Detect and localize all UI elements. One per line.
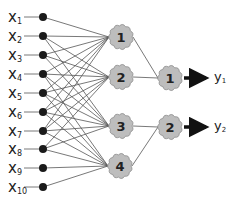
input-label: x6 <box>8 103 22 121</box>
node-number: 2 <box>116 70 125 85</box>
input-dot <box>39 51 47 59</box>
input-label: x3 <box>8 46 22 64</box>
input-node-x10: x10 <box>8 178 47 196</box>
input-layer: x1x2x3x4x5x6x7x8x9x10 <box>8 8 47 196</box>
edge <box>43 126 109 149</box>
input-dot <box>39 89 47 97</box>
node-number: 1 <box>116 30 125 45</box>
output-node-1: 1y1 <box>158 65 227 90</box>
hidden-node-4: 4 <box>108 153 132 178</box>
input-dot <box>39 32 47 40</box>
input-label: x5 <box>8 84 22 102</box>
input-label: x8 <box>8 140 22 158</box>
hidden-node-3: 3 <box>109 113 133 138</box>
input-label: x4 <box>8 65 22 83</box>
input-node-x8: x8 <box>8 140 47 158</box>
edge <box>43 166 108 168</box>
input-hidden-edges <box>43 17 109 187</box>
edge <box>132 127 158 166</box>
input-node-x6: x6 <box>8 103 47 121</box>
node-number: 4 <box>115 159 124 174</box>
input-label: x7 <box>8 122 22 140</box>
input-label: x1 <box>8 8 22 26</box>
input-dot <box>39 127 47 135</box>
input-dot <box>39 145 47 153</box>
output-layer: 1y12y2 <box>158 65 227 139</box>
node-number: 3 <box>116 119 125 134</box>
hidden-output-edges <box>132 37 158 166</box>
edge <box>43 166 108 187</box>
input-label: x9 <box>8 159 22 177</box>
input-dot <box>39 13 47 21</box>
input-node-x9: x9 <box>8 159 47 177</box>
input-dot <box>39 164 47 172</box>
input-dot <box>39 183 47 191</box>
output-node-2: 2y2 <box>158 114 227 139</box>
hidden-layer: 1234 <box>108 24 133 178</box>
edge <box>43 131 108 166</box>
input-dot <box>39 70 47 78</box>
neural-network-diagram: x1x2x3x4x5x6x7x8x9x10 1234 1y12y2 <box>0 0 231 202</box>
edge <box>133 77 158 78</box>
input-node-x5: x5 <box>8 84 47 102</box>
edge <box>43 17 109 37</box>
input-label: x2 <box>8 27 22 45</box>
edge <box>133 126 158 127</box>
output-label-y1: y1 <box>214 69 226 85</box>
input-node-x1: x1 <box>8 8 47 26</box>
edge <box>43 37 109 131</box>
edge <box>43 36 109 37</box>
hidden-node-1: 1 <box>109 24 133 49</box>
output-label-y2: y2 <box>214 118 226 134</box>
input-dot <box>39 108 47 116</box>
input-node-x4: x4 <box>8 65 47 83</box>
input-label: x10 <box>8 178 27 196</box>
hidden-node-2: 2 <box>109 64 133 89</box>
edge <box>43 37 109 55</box>
node-number: 2 <box>165 120 174 135</box>
input-node-x7: x7 <box>8 122 47 140</box>
node-number: 1 <box>165 71 174 86</box>
input-node-x3: x3 <box>8 46 47 64</box>
input-node-x2: x2 <box>8 27 47 45</box>
edge <box>133 37 158 78</box>
edge <box>43 112 109 126</box>
